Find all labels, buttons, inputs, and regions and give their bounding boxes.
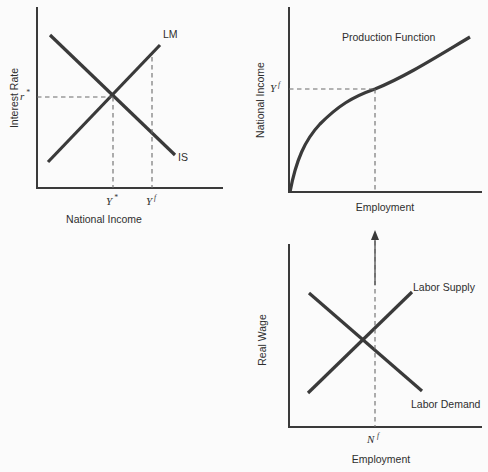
panel-islm: LM IS r * Y * Y f Interest Rate National… (8, 8, 222, 225)
labor-nfull-sup: f (377, 431, 380, 440)
production-xlabel: Employment (356, 201, 414, 213)
production-function-label: Production Function (342, 31, 436, 43)
islm-ystar-tick: Y * (106, 193, 118, 207)
islm-rstar-base: r (20, 90, 25, 102)
production-yfull-base: Y (270, 82, 278, 94)
production-yfull-sup: f (278, 80, 281, 89)
labor-ylabel: Real Wage (256, 314, 268, 366)
islm-yfull-sup: f (154, 193, 157, 202)
labor-supply-label: Labor Supply (413, 281, 476, 293)
production-function-curve (290, 37, 470, 192)
islm-yfull-tick: Y f (146, 193, 157, 207)
islm-ystar-sup: * (114, 193, 118, 202)
lm-curve (48, 45, 160, 162)
lm-label: LM (163, 28, 178, 40)
production-yfull-tick: Y f (270, 80, 281, 94)
islm-ystar-base: Y (106, 195, 114, 207)
labor-nfull-tick: N f (366, 431, 380, 445)
islm-yfull-base: Y (146, 195, 154, 207)
is-label: IS (178, 151, 188, 163)
labor-demand-label: Labor Demand (411, 398, 481, 410)
labor-nfull-base: N (366, 433, 375, 445)
economics-figure: LM IS r * Y * Y f Interest Rate National… (0, 0, 488, 472)
islm-axes (37, 8, 222, 188)
panel-labor: Labor Supply Labor Demand N f Real Wage … (256, 230, 481, 465)
islm-rstar-tick: r * (20, 88, 30, 102)
upward-arrow-icon (371, 230, 379, 285)
islm-rstar-sup: * (26, 88, 30, 97)
production-ylabel: National Income (254, 62, 266, 138)
islm-ylabel: Interest Rate (8, 68, 20, 128)
panel-production: Production Function Y f National Income … (254, 8, 481, 213)
islm-xlabel: National Income (66, 213, 142, 225)
labor-xlabel: Employment (352, 453, 410, 465)
